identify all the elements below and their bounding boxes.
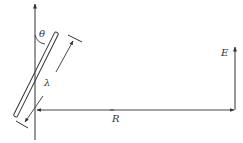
lambda-tick-top	[68, 35, 82, 42]
R-label: R	[111, 113, 120, 124]
lambda-dimension-lower	[25, 96, 43, 122]
lambda-tick-bottom	[16, 121, 28, 128]
lambda-dimension-upper	[56, 41, 73, 72]
theta-label: θ	[39, 28, 45, 39]
dipole-antenna-diagram: θ λ R E	[0, 0, 243, 143]
E-label: E	[220, 47, 229, 58]
lambda-label: λ	[43, 77, 50, 88]
antenna-rod	[13, 32, 59, 118]
